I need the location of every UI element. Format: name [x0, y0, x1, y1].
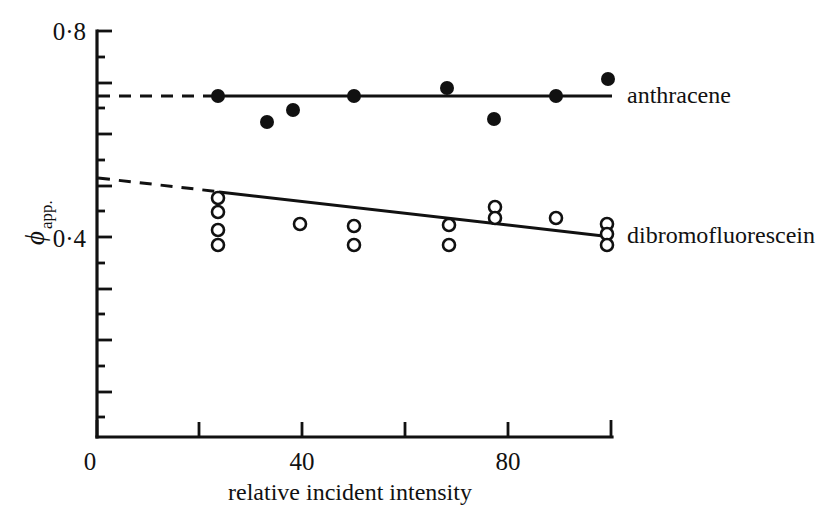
anthracene-data-points — [211, 72, 615, 129]
x-axis-caption: relative incident intensity — [228, 479, 472, 505]
data-point[interactable] — [212, 192, 224, 204]
data-point[interactable] — [260, 115, 274, 129]
data-point[interactable] — [443, 239, 455, 251]
y-tick-label-top: 0·8 — [53, 18, 86, 45]
data-point[interactable] — [487, 112, 501, 126]
data-point[interactable] — [212, 239, 224, 251]
y-axis-label-subscript: app. — [37, 200, 56, 229]
data-point[interactable] — [212, 206, 224, 218]
x-axis-ticks — [97, 420, 611, 437]
y-axis-label-phi: ϕ — [20, 231, 50, 245]
data-point[interactable] — [347, 89, 361, 103]
y-axis-label: ϕ app. — [20, 200, 56, 245]
series-label-dibromofluorescein: dibromofluorescein — [627, 222, 815, 248]
y-axis-ticks — [97, 31, 112, 417]
data-point[interactable] — [601, 72, 615, 86]
scatter-plot-svg: 0·8 0·4 0 40 80 ϕ app. relative incident… — [0, 0, 834, 517]
dibromofluorescein-trend-dashed — [98, 178, 221, 192]
series-label-anthracene: anthracene — [627, 82, 731, 108]
data-point[interactable] — [348, 220, 360, 232]
data-point[interactable] — [443, 219, 455, 231]
data-point[interactable] — [440, 81, 454, 95]
data-point[interactable] — [294, 218, 306, 230]
data-point[interactable] — [286, 103, 300, 117]
x-tick-label-80: 80 — [496, 448, 521, 475]
data-point[interactable] — [549, 89, 563, 103]
x-tick-label-origin: 0 — [84, 448, 97, 475]
data-point[interactable] — [601, 239, 613, 251]
data-point[interactable] — [550, 212, 562, 224]
data-point[interactable] — [489, 212, 501, 224]
y-tick-label-mid: 0·4 — [53, 225, 87, 252]
dibromofluorescein-data-points — [212, 192, 613, 251]
data-point[interactable] — [348, 239, 360, 251]
data-point[interactable] — [211, 89, 225, 103]
figure-container: 0·8 0·4 0 40 80 ϕ app. relative incident… — [0, 0, 834, 517]
data-point[interactable] — [212, 224, 224, 236]
x-tick-label-40: 40 — [290, 448, 315, 475]
